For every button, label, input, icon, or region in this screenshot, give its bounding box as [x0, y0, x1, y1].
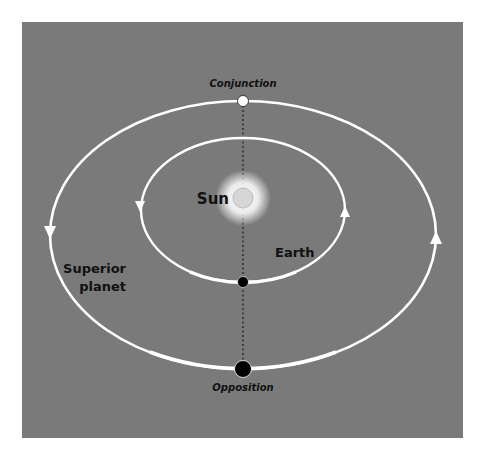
sun-label: Sun — [197, 190, 229, 208]
sun-icon — [233, 188, 253, 208]
orbit-diagram: Conjunction Opposition Sun Earth Superio… — [0, 0, 480, 450]
superior-planet-orbit — [50, 101, 436, 369]
outer-right-arrow-icon — [430, 231, 442, 244]
superior-planet-label-line1: Superior — [63, 261, 127, 276]
superior-planet-label-line2: planet — [79, 279, 126, 294]
opposition-label: Opposition — [212, 382, 273, 393]
opposition-planet-icon — [235, 361, 252, 378]
earth-label: Earth — [275, 245, 315, 260]
inner-left-arrow-icon — [135, 201, 145, 212]
inner-right-arrow-icon — [340, 206, 350, 217]
outer-left-arrow-icon — [44, 226, 56, 239]
conjunction-label: Conjunction — [209, 78, 276, 89]
earth-icon — [238, 277, 249, 288]
conjunction-planet-icon — [238, 96, 249, 107]
